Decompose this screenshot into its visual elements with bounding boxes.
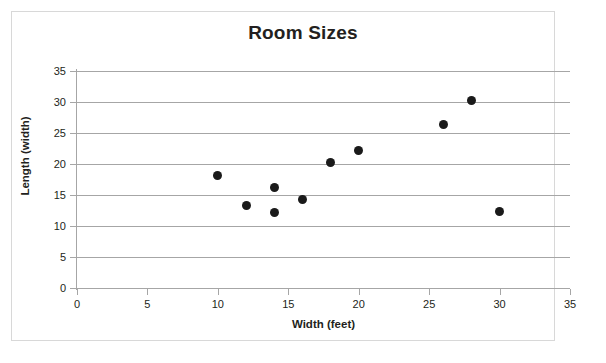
- data-point: [354, 146, 363, 155]
- data-point: [467, 96, 476, 105]
- gridline-y-35: [77, 71, 570, 72]
- data-point: [270, 183, 279, 192]
- gridline-y-10: [77, 226, 570, 227]
- data-point: [270, 208, 279, 217]
- x-axis-title: Width (feet): [77, 318, 570, 330]
- x-tick-0: [77, 289, 78, 295]
- x-axis-line: [77, 288, 570, 289]
- gridline-y-15: [77, 195, 570, 196]
- y-tick-20: [70, 164, 76, 165]
- y-tick-25: [70, 133, 76, 134]
- data-point: [298, 195, 307, 204]
- gridline-y-20: [77, 164, 570, 165]
- chart-title: Room Sizes: [0, 22, 606, 44]
- y-tick-5: [70, 257, 76, 258]
- x-tick-label-30: 30: [480, 298, 520, 310]
- x-tick-10: [218, 289, 219, 295]
- y-tick-label-25: 25: [24, 127, 66, 139]
- data-point: [242, 201, 251, 210]
- x-tick-30: [500, 289, 501, 295]
- data-point: [326, 158, 335, 167]
- x-tick-label-15: 15: [268, 298, 308, 310]
- y-tick-label-10: 10: [24, 220, 66, 232]
- data-point: [495, 207, 504, 216]
- y-tick-label-15: 15: [24, 189, 66, 201]
- y-tick-label-5: 5: [24, 251, 66, 263]
- data-point: [439, 120, 448, 129]
- y-tick-15: [70, 195, 76, 196]
- y-tick-label-20: 20: [24, 158, 66, 170]
- x-tick-label-20: 20: [339, 298, 379, 310]
- x-tick-15: [288, 289, 289, 295]
- y-tick-label-30: 30: [24, 96, 66, 108]
- x-tick-5: [147, 289, 148, 295]
- x-tick-label-0: 0: [57, 298, 97, 310]
- y-tick-35: [70, 71, 76, 72]
- y-tick-10: [70, 226, 76, 227]
- x-tick-label-35: 35: [550, 298, 590, 310]
- plot-area: [77, 71, 570, 288]
- x-tick-35: [570, 289, 571, 295]
- x-tick-label-10: 10: [198, 298, 238, 310]
- y-tick-0: [70, 288, 76, 289]
- x-tick-25: [429, 289, 430, 295]
- y-tick-label-0: 0: [24, 282, 66, 294]
- chart-figure: Room Sizes Length (width) Width (feet) 0…: [0, 0, 606, 363]
- y-tick-label-35: 35: [24, 65, 66, 77]
- gridline-y-25: [77, 133, 570, 134]
- y-tick-30: [70, 102, 76, 103]
- x-tick-label-5: 5: [127, 298, 167, 310]
- x-tick-label-25: 25: [409, 298, 449, 310]
- gridline-y-5: [77, 257, 570, 258]
- gridline-y-30: [77, 102, 570, 103]
- x-tick-20: [359, 289, 360, 295]
- data-point: [213, 171, 222, 180]
